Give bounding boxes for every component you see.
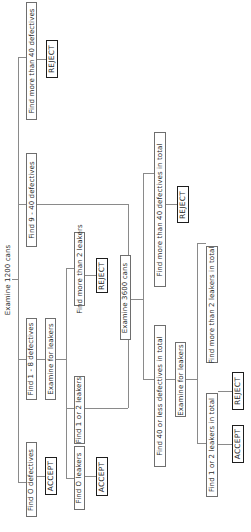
- outcome-reject-more-than-2-leakers: REJECT: [96, 258, 108, 293]
- node-find-40-or-less-defectives-total: Find 40 or less defectives in total: [154, 325, 166, 467]
- node-find-more-than-40-defectives-total: Find more than 40 defectives in total: [154, 132, 166, 287]
- connector-9-40-drop: [128, 204, 129, 255]
- outcome-reject-more-than-40: REJECT: [46, 40, 58, 78]
- outcome-accept-0-defectives: ACCEPT: [45, 457, 57, 495]
- connector-more-than-2-leakers: [66, 268, 74, 269]
- connector-accept-3: [218, 444, 232, 445]
- 3600-branch-connector: [143, 173, 144, 379]
- connector-accept-2: [84, 476, 96, 477]
- node-find-1-or-2-leakers-total: Find 1 or 2 leakers in total: [206, 393, 218, 497]
- connector-1-or-2-total: [197, 443, 206, 444]
- node-find-9-40-defectives: Find 9 - 40 defectives: [26, 153, 37, 247]
- leakers-branch-connector: [66, 268, 67, 478]
- connector-3600-to-branches: [131, 299, 143, 300]
- connector-9-40-to-3600: [36, 204, 128, 205]
- root-connector: [18, 57, 19, 482]
- connector-leakers2-to-branches: [186, 379, 197, 380]
- node-find-more-than-40-defectives: Find more than 40 defectives: [26, 2, 37, 120]
- connector-reject-2: [84, 275, 96, 276]
- root-title: Examine 1200 cans: [2, 247, 14, 312]
- connector-0-leakers: [66, 478, 74, 479]
- connector-0-defectives: [18, 482, 26, 483]
- connector-reject-1: [36, 59, 46, 60]
- node-find-more-than-2-leakers-total: Find more than 2 leakers in total: [206, 246, 218, 363]
- connector-leakers-to-branches: [56, 359, 66, 360]
- connector-1-or-2-rise: [128, 340, 129, 408]
- connector-more-than-40-total: [143, 173, 154, 174]
- connector-more-than-40: [18, 57, 26, 58]
- connector-1-or-2-leakers: [66, 408, 74, 409]
- sampling-plan-flowchart: Examine 1200 cans Find more than 40 defe…: [0, 0, 251, 532]
- connector-40-or-less-total: [143, 379, 154, 380]
- node-find-0-leakers: Find O leakers: [74, 446, 85, 510]
- node-find-0-defectives: Find O defectives: [26, 442, 37, 517]
- outcome-accept-0-leakers: ACCEPT: [96, 457, 108, 496]
- connector-1-8: [18, 359, 26, 360]
- outcome-reject-more-than-2-leakers-total: REJECT: [232, 372, 244, 410]
- connector-1-8-to-leakers: [36, 359, 45, 360]
- outcome-accept-1-or-2-leakers-total: ACCEPT: [232, 425, 244, 463]
- connector-reject-4: [218, 391, 232, 392]
- connector-1-or-2-to-3600: [84, 408, 128, 409]
- node-find-more-than-2-leakers: Find more than 2 leakers: [74, 232, 85, 306]
- node-examine-for-leakers-1: Examine for leakers: [45, 318, 56, 400]
- node-find-1-8-defectives: Find 1 - 8 defectives: [26, 318, 37, 400]
- node-find-1-or-2-leakers: Find 1 or 2 leakers: [74, 376, 85, 444]
- connector-9-40: [18, 204, 26, 205]
- connector-40-or-less-to-leakers: [166, 379, 175, 380]
- connector-reject-3: [166, 204, 177, 205]
- outcome-reject-more-than-40-total: REJECT: [177, 186, 189, 223]
- connector-more-than-2-total: [197, 243, 206, 244]
- node-examine-for-leakers-2: Examine for leakers: [175, 342, 186, 417]
- leakers2-branch-connector: [197, 243, 198, 443]
- connector-accept-1: [36, 476, 45, 477]
- node-examine-3600-cans: Examine 3600 cans: [120, 255, 131, 340]
